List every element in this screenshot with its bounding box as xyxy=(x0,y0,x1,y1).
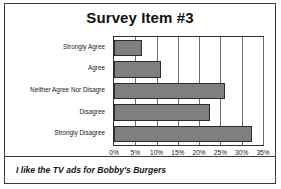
bar-series xyxy=(114,37,263,145)
y-axis-label: Strongly Disagree xyxy=(1,129,105,137)
y-axis-label: Strongly Agree xyxy=(1,43,105,51)
plot-area xyxy=(113,36,264,146)
bar-row xyxy=(114,61,263,77)
plot-block: Strongly AgreeAgreeNeither Agree Nor Dis… xyxy=(5,33,275,151)
bar-row xyxy=(114,104,263,120)
gridline-35% xyxy=(263,37,264,145)
bar xyxy=(114,83,225,99)
y-axis-label: Neither Agree Nor Disagre xyxy=(1,86,105,94)
bar xyxy=(114,126,252,142)
chart-caption: I like the TV ads for Bobby's Burgers xyxy=(16,165,166,176)
bar-row xyxy=(114,40,263,56)
chart-figure: Survey Item #3 Strongly AgreeAgreeNeithe… xyxy=(4,3,276,184)
caption-divider xyxy=(5,156,275,157)
x-axis-tick-labels: 0%5%10%15%20%25%30%35% xyxy=(113,148,266,160)
y-axis-label: Disagree xyxy=(1,108,105,116)
bar-row xyxy=(114,83,263,99)
y-axis-label: Agree xyxy=(1,64,105,72)
bar xyxy=(114,40,142,56)
bar-row xyxy=(114,126,263,142)
bar xyxy=(114,104,210,120)
chart-title: Survey Item #3 xyxy=(5,9,275,27)
y-axis-category-labels: Strongly AgreeAgreeNeither Agree Nor Dis… xyxy=(5,36,109,146)
bar xyxy=(114,61,161,77)
